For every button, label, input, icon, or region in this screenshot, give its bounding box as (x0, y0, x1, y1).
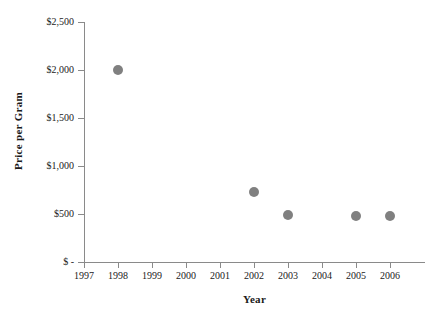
plot-area: $2,500$2,000$1,500$1,000$500$ -199719981… (0, 0, 442, 321)
y-axis-title-text: Price per Gram (12, 92, 24, 170)
x-axis-tick (118, 263, 119, 268)
y-axis-tick (78, 70, 84, 71)
x-axis-title: Year (84, 293, 425, 305)
y-axis-tick (78, 214, 84, 215)
x-axis-tick (220, 263, 221, 268)
scatter-chart: $2,500$2,000$1,500$1,000$500$ -199719981… (0, 0, 442, 321)
x-axis-tick (288, 263, 289, 268)
x-axis-tick-label: 2006 (370, 270, 410, 281)
y-axis-title: Price per Gram (8, 0, 28, 262)
y-axis-tick (78, 22, 84, 23)
data-point (283, 210, 293, 220)
x-axis-tick (356, 263, 357, 268)
y-axis-tick (78, 118, 84, 119)
x-axis-tick (84, 263, 85, 268)
data-point (385, 211, 395, 221)
x-axis-tick (254, 263, 255, 268)
y-axis-tick-label: $500 (54, 209, 74, 219)
data-point (113, 65, 123, 75)
x-axis-tick (152, 263, 153, 268)
y-axis-tick-label: $1,000 (47, 161, 75, 171)
y-axis-tick-label: $2,500 (47, 17, 75, 27)
x-axis-tick (186, 263, 187, 268)
y-axis-tick-label: $2,000 (47, 65, 75, 75)
x-axis-tick (322, 263, 323, 268)
x-axis-tick (390, 263, 391, 268)
data-point (351, 211, 361, 221)
data-point (249, 187, 259, 197)
y-axis-tick-label: $1,500 (47, 113, 75, 123)
y-axis-tick (78, 166, 84, 167)
y-axis-tick-label: $ - (63, 257, 74, 267)
